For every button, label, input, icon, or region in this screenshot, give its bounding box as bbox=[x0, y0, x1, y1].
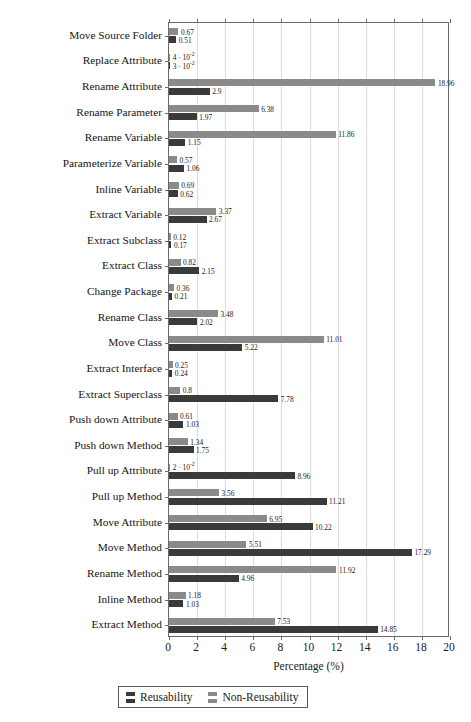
y-axis-label-push-down-method: Push down Method bbox=[0, 439, 162, 451]
bar-reusability-inline-variable bbox=[169, 190, 178, 197]
bar-reusability-extract-superclass bbox=[169, 395, 278, 402]
y-tick-mark bbox=[165, 625, 169, 626]
y-axis-label-rename-parameter: Rename Parameter bbox=[0, 106, 162, 118]
x-tick-label-18: 18 bbox=[415, 641, 427, 653]
bar-non-reusability-move-source-folder bbox=[169, 28, 178, 35]
x-tick-label-12: 12 bbox=[331, 641, 343, 653]
bar-reusability-move-method bbox=[169, 549, 412, 556]
y-tick-mark bbox=[165, 523, 169, 524]
refactoring-reusability-bar-chart: Move Source FolderReplace AttributeRenam… bbox=[0, 0, 471, 722]
bar-value-non-reusability: 2 · 10-2 bbox=[173, 463, 195, 472]
y-tick-mark bbox=[165, 215, 169, 216]
x-tick-mark-4 bbox=[225, 636, 226, 640]
x-tick-mark-16 bbox=[394, 19, 395, 23]
x-tick-label-0: 0 bbox=[165, 641, 171, 653]
gridline-18 bbox=[422, 23, 423, 636]
y-tick-mark bbox=[165, 548, 169, 549]
y-axis-label-inline-method: Inline Method bbox=[0, 593, 162, 605]
x-axis-title: Percentage (%) bbox=[168, 660, 449, 672]
bar-non-reusability-pull-up-method bbox=[169, 489, 219, 496]
y-tick-mark bbox=[165, 36, 169, 37]
x-tick-mark-10 bbox=[310, 19, 311, 23]
x-tick-mark-4 bbox=[225, 19, 226, 23]
y-axis-label-replace-attribute: Replace Attribute bbox=[0, 54, 162, 66]
legend-swatch-reusability bbox=[126, 692, 135, 703]
y-tick-mark bbox=[165, 87, 169, 88]
bar-value-non-reusability: 11.01 bbox=[326, 335, 342, 344]
x-tick-label-2: 2 bbox=[193, 641, 199, 653]
bar-non-reusability-push-down-method bbox=[169, 438, 188, 445]
bar-reusability-push-down-attribute bbox=[169, 421, 183, 428]
bar-value-non-reusability: 3.56 bbox=[222, 488, 235, 497]
bar-value-reusability: 1.75 bbox=[196, 445, 209, 454]
y-axis-label-extract-method: Extract Method bbox=[0, 618, 162, 630]
bar-value-reusability: 5.22 bbox=[245, 343, 258, 352]
y-axis-label-extract-subclass: Extract Subclass bbox=[0, 234, 162, 246]
x-tick-mark-8 bbox=[281, 636, 282, 640]
y-tick-mark bbox=[165, 471, 169, 472]
bar-non-reusability-pull-up-attribute bbox=[169, 464, 170, 471]
bar-value-non-reusability: 18.96 bbox=[438, 78, 455, 87]
y-axis-label-push-down-attribute: Push down Attribute bbox=[0, 413, 162, 425]
bar-value-reusability: 3 · 10-2 bbox=[173, 61, 195, 70]
x-tick-mark-12 bbox=[338, 636, 339, 640]
bar-reusability-pull-up-attribute bbox=[169, 472, 295, 479]
x-tick-mark-20 bbox=[450, 19, 451, 23]
bar-value-non-reusability: 11.86 bbox=[338, 130, 354, 139]
bar-non-reusability-move-class bbox=[169, 336, 324, 343]
x-tick-mark-2 bbox=[197, 19, 198, 23]
bar-value-reusability: 7.78 bbox=[281, 394, 294, 403]
y-axis-label-extract-superclass: Extract Superclass bbox=[0, 388, 162, 400]
y-tick-mark bbox=[165, 574, 169, 575]
y-tick-mark bbox=[165, 497, 169, 498]
y-tick-mark bbox=[165, 600, 169, 601]
bar-value-reusability: 17.29 bbox=[414, 548, 431, 557]
legend-label-reusability: Reusability bbox=[140, 691, 192, 703]
bar-reusability-move-attribute bbox=[169, 523, 313, 530]
x-tick-mark-20 bbox=[450, 636, 451, 640]
bar-non-reusability-inline-variable bbox=[169, 182, 179, 189]
bar-non-reusability-move-attribute bbox=[169, 515, 267, 522]
legend-label-non-reusability: Non-Reusability bbox=[222, 691, 298, 703]
bar-value-reusability: 1.15 bbox=[188, 138, 201, 147]
bar-reusability-extract-interface bbox=[169, 370, 172, 377]
bar-value-reusability: 8.96 bbox=[297, 471, 310, 480]
gridline-16 bbox=[394, 23, 395, 636]
bar-reusability-parameterize-variable bbox=[169, 165, 184, 172]
y-axis-label-extract-interface: Extract Interface bbox=[0, 362, 162, 374]
bar-non-reusability-extract-interface bbox=[169, 361, 173, 368]
y-tick-mark bbox=[165, 164, 169, 165]
bar-value-reusability: 11.21 bbox=[329, 497, 345, 506]
gridline-14 bbox=[366, 23, 367, 636]
legend-swatch-non-reusability bbox=[208, 692, 217, 703]
bar-non-reusability-rename-attribute bbox=[169, 79, 435, 86]
gridline-8 bbox=[281, 23, 282, 636]
x-tick-mark-14 bbox=[366, 636, 367, 640]
y-axis-label-pull-up-method: Pull up Method bbox=[0, 490, 162, 502]
bar-value-non-reusability: 7.53 bbox=[277, 617, 290, 626]
bar-reusability-rename-method bbox=[169, 575, 239, 582]
bar-reusability-rename-parameter bbox=[169, 113, 197, 120]
legend-entry-non-reusability: Non-Reusability bbox=[208, 691, 298, 703]
x-tick-label-4: 4 bbox=[221, 641, 227, 653]
bar-non-reusability-parameterize-variable bbox=[169, 156, 177, 163]
x-tick-mark-18 bbox=[422, 19, 423, 23]
y-tick-mark bbox=[165, 266, 169, 267]
bar-reusability-extract-method bbox=[169, 626, 378, 633]
gridline-12 bbox=[338, 23, 339, 636]
x-tick-mark-14 bbox=[366, 19, 367, 23]
x-tick-mark-8 bbox=[281, 19, 282, 23]
bar-value-reusability: 2.67 bbox=[209, 215, 222, 224]
bar-non-reusability-rename-class bbox=[169, 310, 218, 317]
y-tick-mark bbox=[165, 318, 169, 319]
y-axis-label-move-method: Move Method bbox=[0, 541, 162, 553]
bar-value-reusability: 2.15 bbox=[202, 266, 215, 275]
bar-value-reusability: 1.97 bbox=[199, 112, 212, 121]
x-tick-mark-6 bbox=[253, 19, 254, 23]
bar-value-reusability: 2.9 bbox=[212, 87, 221, 96]
y-tick-mark bbox=[165, 369, 169, 370]
bar-non-reusability-change-package bbox=[169, 284, 174, 291]
y-axis-label-parameterize-variable: Parameterize Variable bbox=[0, 157, 162, 169]
y-axis-label-pull-up-attribute: Pull up Attribute bbox=[0, 464, 162, 476]
bar-value-non-reusability: 3.48 bbox=[220, 309, 233, 318]
